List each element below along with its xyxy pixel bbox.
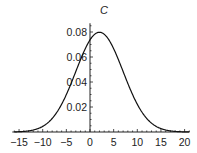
x-tick-label: 0 [87,136,93,148]
chart-canvas: C −15−10−5051015200.020.040.060.08 [0,0,197,153]
density-curve [14,32,189,132]
x-tick-label: −15 [10,136,28,148]
x-tick-label: 20 [179,136,191,148]
x-tick-label: −10 [34,136,52,148]
x-tick-label: 10 [131,136,143,148]
chart-title: C [100,4,108,16]
y-tick-label: 0.02 [67,101,88,113]
x-tick-label: −5 [60,136,72,148]
y-tick-label: 0.06 [67,51,88,63]
x-tick-label: 5 [111,136,117,148]
x-tick-label: 15 [155,136,167,148]
y-tick-label: 0.08 [67,26,88,38]
